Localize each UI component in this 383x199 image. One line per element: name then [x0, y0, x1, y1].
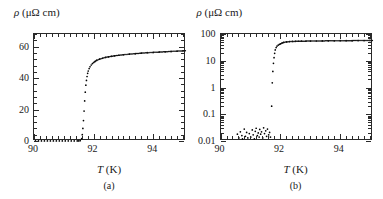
- axis-tick: [268, 136, 269, 139]
- data-point: [83, 120, 85, 122]
- axis-tick: [221, 48, 224, 49]
- axis-tick: [100, 34, 101, 37]
- axis-tick: [181, 53, 184, 54]
- axis-tick: [304, 136, 305, 139]
- axis-tick: [106, 34, 107, 37]
- data-point: [248, 133, 250, 135]
- axis-tick: [221, 125, 224, 126]
- axis-tick: [368, 96, 371, 97]
- data-point: [266, 128, 268, 130]
- axis-tick: [100, 136, 101, 139]
- axis-tick: [221, 63, 224, 64]
- axis-tick: [221, 69, 224, 70]
- axis-tick: [322, 34, 323, 37]
- data-point: [70, 140, 72, 142]
- axis-tick: [221, 134, 222, 139]
- axis-tick: [221, 71, 224, 72]
- axis-tick: [352, 34, 353, 37]
- axis-tick: [368, 125, 371, 126]
- axis-tick: [221, 89, 224, 90]
- panel-b-y-axis-label: ρ (μΩ cm): [197, 6, 243, 18]
- axis-tick: [123, 34, 124, 37]
- axis-tick: [238, 136, 239, 139]
- axis-tick: [368, 102, 371, 103]
- data-point: [41, 140, 43, 142]
- axis-tick: [58, 136, 59, 139]
- x-axis-tick-label: 94: [147, 143, 157, 154]
- data-point: [275, 47, 277, 49]
- axis-tick: [366, 141, 371, 142]
- axis-tick: [280, 134, 281, 139]
- axis-tick: [34, 53, 37, 54]
- data-point: [87, 72, 89, 74]
- axis-tick: [181, 103, 184, 104]
- axis-tick: [221, 90, 224, 91]
- axis-tick: [112, 136, 113, 139]
- axis-tick: [368, 40, 371, 41]
- axis-tick: [334, 136, 335, 139]
- data-point: [257, 132, 259, 134]
- axis-tick: [238, 34, 239, 37]
- data-point: [85, 84, 87, 86]
- axis-tick: [141, 34, 142, 37]
- axis-tick: [34, 103, 37, 104]
- axis-tick: [179, 141, 184, 142]
- data-point: [64, 140, 66, 142]
- axis-tick: [368, 120, 371, 121]
- axis-tick: [135, 34, 136, 37]
- axis-tick: [368, 48, 371, 49]
- axis-tick: [181, 72, 184, 73]
- axis-tick: [298, 136, 299, 139]
- panel-b-x-axis-title: T (K): [283, 163, 307, 175]
- axis-tick: [244, 34, 245, 37]
- data-point: [255, 127, 257, 129]
- axis-tick: [268, 34, 269, 37]
- data-point: [78, 140, 80, 142]
- y-axis-tick-label: 1: [192, 81, 216, 92]
- data-point: [274, 49, 276, 51]
- x-axis-tick-label: 90: [28, 143, 38, 154]
- axis-tick: [141, 136, 142, 139]
- axis-tick: [181, 84, 184, 85]
- data-point: [262, 127, 264, 129]
- axis-tick: [368, 122, 371, 123]
- axis-tick: [181, 91, 184, 92]
- data-point: [245, 132, 247, 134]
- axis-tick: [346, 136, 347, 139]
- axis-tick: [221, 79, 224, 80]
- axis-tick: [221, 34, 222, 39]
- x-axis-tick-label: 90: [215, 143, 225, 154]
- axis-tick: [221, 102, 224, 103]
- data-point: [253, 138, 255, 140]
- axis-tick: [76, 34, 77, 37]
- data-point: [259, 133, 261, 135]
- axis-tick: [34, 34, 35, 39]
- axis-tick: [221, 98, 224, 99]
- axis-tick: [221, 96, 224, 97]
- axis-tick: [181, 97, 184, 98]
- axis-tick: [46, 34, 47, 37]
- panel-b-plot-area: [220, 33, 372, 140]
- data-point: [76, 140, 78, 142]
- axis-tick: [40, 136, 41, 139]
- axis-tick: [358, 34, 359, 37]
- y-axis-tick-label: 0.1: [192, 108, 216, 119]
- axis-tick: [123, 136, 124, 139]
- axis-tick: [177, 34, 178, 37]
- axis-tick: [221, 141, 226, 142]
- axis-tick: [334, 34, 335, 37]
- data-point: [58, 140, 60, 142]
- axis-tick: [159, 136, 160, 139]
- axis-tick: [129, 34, 130, 37]
- axis-tick: [82, 136, 83, 139]
- axis-tick: [368, 79, 371, 80]
- y-axis-tick-label: 0.01: [192, 135, 216, 146]
- data-point: [251, 129, 253, 131]
- panel-b-T-unit: (K): [292, 163, 307, 175]
- data-point: [61, 140, 63, 142]
- axis-tick: [280, 34, 281, 39]
- panel-a-data-layer: [34, 34, 186, 141]
- data-point: [258, 129, 260, 131]
- axis-tick: [183, 136, 184, 139]
- axis-tick: [368, 45, 371, 46]
